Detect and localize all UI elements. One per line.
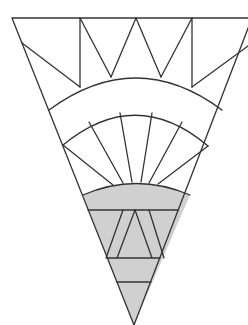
crown <box>22 18 248 87</box>
pattern-diagram <box>0 0 248 325</box>
ray-fan <box>63 113 208 185</box>
shaded-region <box>83 184 190 325</box>
inner-arc <box>63 115 208 146</box>
